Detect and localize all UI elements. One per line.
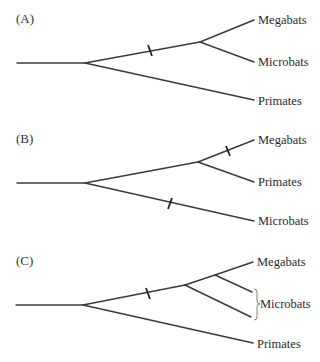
taxon-label-megabats: Megabats [258,14,307,27]
tree-b [17,140,254,221]
microbats-branch-c-1 [215,275,252,292]
tree-a [17,20,254,100]
panel-label-b: (B) [16,131,33,147]
taxon-label-primates: Primates [257,338,301,351]
megabats-branch-c [215,262,253,275]
primates-branch-c [83,305,253,343]
taxon-label-microbats: Microbats [258,56,309,69]
panel-label-c: (C) [16,253,33,269]
taxon-label-microbats: Microbats [258,215,309,228]
taxon-label-megabats: Megabats [257,256,306,269]
microbats-branch-a [200,42,254,62]
megabats-branch-b [198,140,254,162]
trait-origin-mark [168,198,172,209]
trait-origin-mark [146,288,150,299]
microbats-branch-c-2 [185,285,251,317]
primates-branch-b [198,162,254,182]
taxon-label-microbats: Microbats [260,298,311,311]
stem-branch-b [85,162,198,183]
bat-stem-branch-c [83,285,185,305]
taxon-label-megabats: Megabats [258,134,307,147]
taxon-label-primates: Primates [258,95,302,108]
taxon-label-primates: Primates [258,176,302,189]
inner-branch-c [185,275,215,285]
panel-label-a: (A) [16,11,34,27]
bat-stem-branch-a [85,42,200,63]
tree-c [16,262,260,343]
megabats-branch-a [200,20,254,42]
primates-branch-a [85,63,254,100]
microbats-branch-b [85,183,254,221]
